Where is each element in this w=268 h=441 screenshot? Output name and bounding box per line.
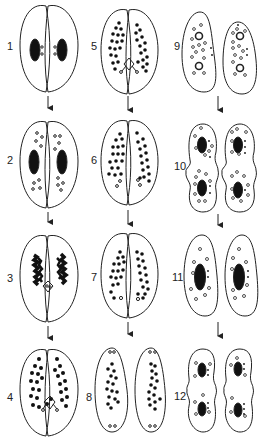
stage-4-cells (20, 349, 78, 436)
stage-9-cells (182, 12, 256, 94)
stage-10-cells (186, 124, 257, 212)
stage-3-cells (20, 235, 78, 322)
stage-2-cells (20, 121, 78, 208)
stage-6-cells (101, 120, 158, 205)
stage-7-cells (101, 233, 158, 318)
diagram-canvas (0, 0, 268, 441)
stage-5-cells (101, 9, 158, 94)
stage-11-cells (184, 235, 258, 316)
stage-8-cells (95, 348, 165, 432)
stage-12-cells (187, 349, 254, 432)
conjugation-diagram: 1 2 3 4 5 6 7 8 9 10 11 12 (0, 0, 268, 441)
stage-1-cells (20, 5, 78, 92)
